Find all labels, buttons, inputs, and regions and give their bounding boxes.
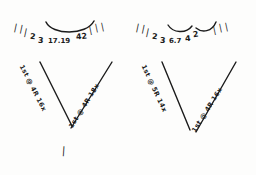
right-v-descending-stroke: [162, 62, 190, 130]
left-arch-tick-right-outer: | |: [94, 22, 105, 33]
left-arch-number-0: 2: [30, 33, 36, 42]
left-arch-number-3: 42: [76, 32, 88, 41]
right-arch-number-4: 2: [192, 31, 199, 40]
right-arch-curve-left: [168, 25, 192, 32]
sketch-canvas: | | | 2 3 17.19 42 | | | 1st @ 4R 16x 1s…: [0, 0, 256, 175]
left-arch-number-1: 3: [38, 37, 44, 45]
right-arch-number-1: 3: [160, 37, 166, 45]
right-arch-number-3: 4: [185, 35, 191, 43]
right-arch-number-0: 2: [152, 33, 158, 42]
right-arch-tick-right-outer: | |: [218, 22, 229, 33]
right-arch-number-2: 6.7: [169, 38, 181, 45]
left-v-descending-stroke: [40, 62, 72, 126]
left-arch-tick-left-outer: | |: [13, 23, 24, 34]
right-arch-tick-left-outer: | |: [135, 23, 146, 34]
left-arch-number-2: 17.19: [48, 38, 70, 45]
left-arch-curve: [46, 21, 94, 32]
footer-mark: |: [62, 146, 66, 156]
